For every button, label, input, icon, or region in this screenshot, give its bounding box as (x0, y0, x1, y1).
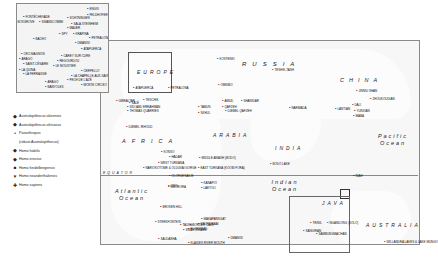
site-label: CRO-MAGNON (23, 52, 44, 56)
site-marker: •ATAPUERCA (133, 86, 153, 90)
site-label: PETRALONA (91, 36, 109, 40)
site-marker: •NIAH (353, 174, 363, 178)
site-marker: •WILLANDRA LAKES & LAKE MUNGO (384, 240, 438, 244)
site-label: THOMAS QUARRIES (129, 109, 158, 113)
diamond-icon: ◆ (11, 148, 19, 153)
site-label: SAMBUNGMACHAN (318, 232, 346, 236)
site-label: STERKFONTEIN (157, 220, 180, 224)
site-marker: •TAUNG (180, 223, 193, 227)
legend-label: Australopithecus afarensis (19, 114, 61, 118)
site-label: KOSTENKI (219, 57, 234, 61)
site-label: EAST TURKANA (KOOBI FORA) (200, 166, 244, 170)
site-label: TESHIK-TASH (274, 68, 294, 72)
site-label: BANYOLES (47, 85, 63, 89)
site-label: KLASIES RIVER MOUTH (190, 241, 224, 245)
dot-icon: • (11, 131, 19, 136)
site-label: YUNXIAN (356, 109, 369, 113)
site-marker: •BODO LAKE (270, 162, 290, 166)
legend-label: Homo sapiens (19, 183, 42, 187)
site-label: SHANIDAR (243, 99, 259, 103)
legend-item: (robust Australopithecus) (11, 138, 61, 147)
site-marker: •KLASIES RIVER MOUTH (188, 241, 225, 245)
site-label: CAREY SUR CURE (63, 54, 90, 58)
site-marker: •OMO (168, 184, 178, 188)
site-label: SPY (61, 32, 67, 36)
site-marker: •MAUER (67, 26, 80, 30)
site-label: DJEBEL IRHOUD (128, 125, 152, 129)
legend-label: Homo neanderthalensis (19, 174, 57, 178)
site-label: NARMADA (291, 106, 306, 110)
triangle-down-icon: ▼ (11, 174, 19, 179)
legend-item: ▼Homo neanderthalensis (11, 172, 61, 181)
site-label: LA FERRASSIE (25, 72, 46, 76)
site-label: ENGIS (89, 7, 98, 11)
site-label: BODO LAKE (272, 162, 289, 166)
legend-item: ✚Homo sapiens (11, 181, 61, 190)
site-marker: •SAMBUNGMACHAN (316, 232, 347, 236)
region-label-arabia: ARABIA (213, 132, 249, 138)
europe-inset: •ENGIS•FELDHOFER•FONTÉCHEVADE•SCHÖNINGEN… (16, 3, 109, 93)
site-marker: •DJEBEL QAFZEH (225, 109, 252, 113)
cross-icon: ✚ (11, 183, 19, 188)
site-label: WEST TURKANA (160, 161, 184, 165)
site-label: TABUN (200, 105, 210, 109)
site-label: TESCHIK (145, 98, 158, 102)
site-label: SWARTKRANS (185, 228, 206, 232)
legend-item: ◆Homo habilis (11, 146, 61, 155)
site-marker: •BANYOLES (45, 85, 64, 89)
site-marker: •EAST TURKANA (KOOBI FORA) (198, 166, 245, 170)
legend-item: ◆Australopithecus africanus (11, 121, 61, 130)
site-label: DMANISI (77, 41, 90, 45)
site-marker: •MIDDLE AWASH (BODO) (199, 156, 236, 160)
site-label: SAINT-CÉSAIRE (25, 62, 48, 66)
site-label: SWANSCOMBE (41, 20, 63, 24)
site-label: DALI (354, 103, 361, 107)
legend-item: ■Homo heidelbergensis (11, 164, 61, 173)
region-label-india: INDIA (275, 145, 303, 151)
region-label-europe: EUROPE (137, 69, 176, 75)
site-label: REGOURDOU (59, 59, 79, 63)
site-label: SALDANHA (160, 237, 176, 241)
site-marker: •SPY (59, 32, 67, 36)
site-marker: •KOSTENKI (217, 57, 235, 61)
site-label: FONTÉCHEVADE (25, 15, 49, 19)
diamond-icon: ◆ (11, 122, 19, 127)
site-marker: •ARAGO (19, 57, 32, 61)
site-marker: •REGOURDOU (57, 59, 79, 63)
site-label: MAKAPANSGAT (203, 217, 225, 221)
site-label: NARIOKOTOME & OLDUVAI GORGE (145, 166, 196, 170)
region-label-australia: AUSTRALIA (366, 222, 421, 228)
site-marker: •FONTÉCHEVADE (23, 15, 50, 19)
site-label: HADAR (171, 155, 182, 159)
site-marker: •LANTIAN (335, 107, 350, 111)
site-marker: •CAREY SUR CURE (61, 54, 90, 58)
legend-label: Australopithecus africanus (19, 123, 61, 127)
site-label: ARAGO (47, 80, 58, 84)
site-label: ATAPUERCA (83, 47, 101, 51)
site-label: BROKEN HILL (162, 205, 182, 209)
equator-label: EQUATOR (103, 171, 134, 175)
site-marker: •TESCHIK (143, 98, 158, 102)
site-marker: •DALI (352, 103, 361, 107)
site-label: TRINIL (312, 221, 322, 225)
region-label-java: JAVA (322, 200, 346, 206)
site-label: JINNIU SHAN (358, 89, 377, 93)
site-marker: •TABUN (198, 105, 210, 109)
site-marker: •BORDER CAVE (190, 223, 214, 227)
site-label: MABA (355, 114, 364, 118)
site-label: MONTE CIRCEO (83, 83, 106, 87)
site-marker: •ENGIS (87, 7, 99, 11)
site-marker: •KONSO (161, 150, 174, 154)
site-marker: •KANAPOI (201, 181, 217, 185)
site-marker: •PECH DE L'AZÉ (67, 78, 92, 82)
site-label: AMUD (224, 99, 233, 103)
site-label: NIAH (355, 174, 362, 178)
site-marker: •BOXGROVE (16, 20, 35, 24)
site-label: KRAPINA (75, 32, 88, 36)
site-label: LE MOUSTIER (55, 64, 75, 68)
site-label: LANTIAN (337, 107, 350, 111)
site-marker: •ARAGO (45, 80, 58, 84)
site-marker: •NARIOKOTOME & OLDUVAI GORGE (143, 166, 196, 170)
landmass-india (251, 101, 321, 161)
site-marker: •TRINIL (310, 221, 322, 225)
